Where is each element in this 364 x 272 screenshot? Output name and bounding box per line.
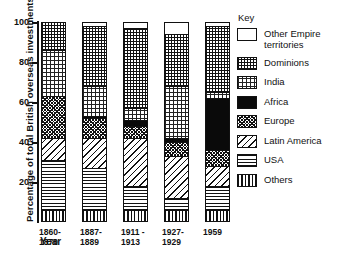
legend-label: Latin America	[264, 135, 322, 147]
segment-europe	[206, 151, 229, 167]
segment-usa	[124, 187, 147, 211]
legend-item-africa[interactable]: Africa	[237, 96, 363, 109]
legend-label: India	[264, 76, 285, 88]
y-tick-label-80: 80	[19, 57, 29, 67]
y-tick-60	[32, 102, 38, 104]
y-tick-label-40: 40	[19, 137, 29, 147]
segment-india	[165, 87, 188, 139]
y-tick-20	[32, 182, 38, 184]
stacked-bar-chart: Percentage of total British overseas inv…	[0, 0, 364, 272]
segment-europe	[42, 97, 65, 139]
segment-latin-america	[42, 139, 65, 161]
y-tick-100	[32, 22, 38, 24]
legend-label: Other Empire territories	[264, 28, 321, 50]
segment-dominions	[42, 22, 65, 51]
legend-label: Africa	[264, 96, 288, 108]
x-axis-title: Year	[40, 236, 61, 247]
segment-others	[206, 211, 229, 221]
y-tick-label-60: 60	[19, 97, 29, 107]
segment-latin-america	[83, 139, 106, 169]
segment-others	[83, 211, 106, 221]
legend-swatch-icon	[237, 154, 257, 167]
segment-usa	[165, 199, 188, 211]
segment-europe	[83, 119, 106, 139]
bar-1911-1913[interactable]	[123, 22, 148, 222]
y-axis-line	[37, 21, 39, 223]
legend-title: Key	[237, 12, 363, 23]
legend-item-other-empire-territories[interactable]: Other Empire territories	[237, 28, 363, 50]
bar-1887-1889[interactable]	[82, 22, 107, 222]
legend-swatch-icon	[237, 115, 257, 128]
legend-item-others[interactable]: Others	[237, 174, 363, 187]
legend-item-usa[interactable]: USA	[237, 154, 363, 167]
x-label-1959: 1959	[203, 228, 249, 238]
segment-india	[83, 87, 106, 117]
x-label-1911-1913: 1911 - 1913	[121, 228, 167, 247]
segment-india	[206, 93, 229, 99]
segment-others	[42, 211, 65, 221]
segment-others	[165, 211, 188, 221]
segment-africa	[124, 121, 147, 127]
bar-1959[interactable]	[205, 22, 230, 222]
segment-other-empire-territories	[206, 22, 229, 27]
legend-item-europe[interactable]: Europe	[237, 115, 363, 128]
segment-latin-america	[206, 167, 229, 187]
segment-usa	[83, 169, 106, 211]
legend-label: USA	[264, 154, 284, 166]
segment-dominions	[83, 27, 106, 87]
bar-1927-1929[interactable]	[164, 22, 189, 222]
segment-europe	[165, 143, 188, 157]
segment-dominions	[206, 27, 229, 93]
segment-africa	[165, 139, 188, 143]
segment-europe	[124, 127, 147, 139]
y-tick-label-20: 20	[19, 177, 29, 187]
legend-swatch-icon	[237, 28, 257, 41]
segment-dominions	[124, 29, 147, 109]
legend-swatch-icon	[237, 174, 257, 187]
segment-usa	[42, 161, 65, 211]
segment-latin-america	[165, 157, 188, 199]
legend: Key Other Empire territoriesDominionsInd…	[237, 12, 363, 193]
plot-area: 100 80 60 40 20 1860- 18701887- 18891911…	[38, 22, 228, 222]
legend-swatch-icon	[237, 76, 257, 89]
y-tick-label-100: 100	[14, 17, 29, 27]
legend-item-dominions[interactable]: Dominions	[237, 57, 363, 70]
legend-label: Dominions	[264, 57, 309, 69]
y-tick-40	[32, 142, 38, 144]
segment-africa	[83, 117, 106, 119]
segment-other-empire-territories	[83, 22, 106, 27]
legend-label: Others	[264, 174, 293, 186]
segment-africa	[206, 99, 229, 151]
legend-item-latin-america[interactable]: Latin America	[237, 135, 363, 148]
segment-latin-america	[124, 139, 147, 187]
legend-item-india[interactable]: India	[237, 76, 363, 89]
segment-india	[42, 51, 65, 97]
segment-dominions	[165, 35, 188, 87]
bar-1860-1870[interactable]	[41, 22, 66, 222]
legend-items: Other Empire territoriesDominionsIndiaAf…	[237, 28, 363, 187]
y-axis-title: Percentage of total British overseas inv…	[24, 0, 35, 225]
segment-other-empire-territories	[165, 22, 188, 35]
legend-swatch-icon	[237, 96, 257, 109]
segment-usa	[206, 187, 229, 211]
segment-india	[124, 109, 147, 121]
segment-other-empire-territories	[124, 22, 147, 29]
segment-others	[124, 211, 147, 221]
legend-label: Europe	[264, 115, 295, 127]
x-label-1887-1889: 1887- 1889	[80, 228, 126, 247]
legend-swatch-icon	[237, 57, 257, 70]
y-tick-80	[32, 62, 38, 64]
x-label-1927-1929: 1927- 1929	[162, 228, 208, 247]
legend-swatch-icon	[237, 135, 257, 148]
